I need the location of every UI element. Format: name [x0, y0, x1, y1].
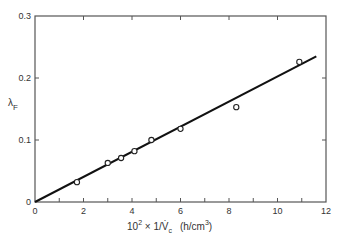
x-tick-label: 0 [32, 206, 37, 216]
x-tick-label: 4 [129, 206, 134, 216]
data-point-marker [297, 59, 302, 64]
x-tick-label: 6 [178, 206, 183, 216]
data-point-marker [178, 126, 183, 131]
x-tick-label: 12 [321, 206, 331, 216]
x-axis-label: 102 × 1/V̇c(h/cm3) [127, 219, 212, 234]
y-axis-label: λF [8, 97, 18, 112]
y-tick-labels: 00.10.20.3 [18, 11, 31, 207]
plot-frame [35, 16, 326, 202]
y-tick-label: 0.1 [18, 135, 31, 145]
x-tick-label: 10 [272, 206, 282, 216]
chart: 024681012 00.10.20.3 λF 102 × 1/V̇c(h/cm… [0, 0, 340, 244]
data-point-marker [74, 180, 79, 185]
y-tick-label: 0.3 [18, 11, 31, 21]
y-tick-label: 0 [26, 197, 31, 207]
x-tick-labels: 024681012 [32, 206, 331, 216]
plot-border [35, 16, 326, 202]
data-point-marker [105, 160, 110, 165]
data-point-marker [234, 105, 239, 110]
data-point-marker [149, 137, 154, 142]
axis-ticks [35, 16, 326, 202]
data-point-marker [118, 155, 123, 160]
x-tick-label: 2 [81, 206, 86, 216]
data-point-marker [132, 149, 137, 154]
y-tick-label: 0.2 [18, 73, 31, 83]
x-tick-label: 8 [226, 206, 231, 216]
